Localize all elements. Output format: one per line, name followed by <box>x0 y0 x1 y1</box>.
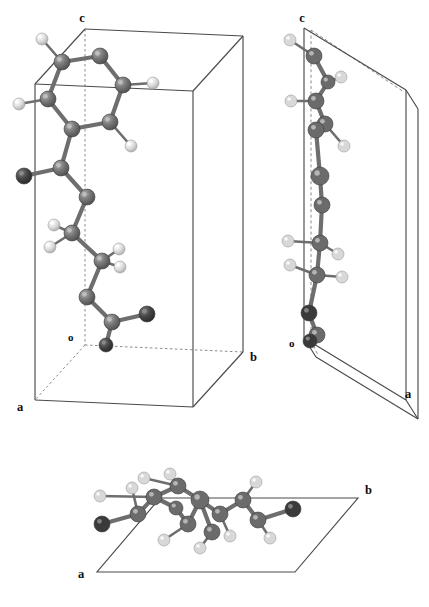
axis-label-a: a <box>17 400 24 414</box>
hydrogen-atom <box>335 71 347 83</box>
axis-label-a: a <box>78 567 85 581</box>
atom-specular-highlight <box>102 341 106 345</box>
axis-label-c: c <box>79 11 85 25</box>
atom-specular-highlight <box>67 124 72 129</box>
carbon-atom <box>314 197 330 213</box>
atom-specular-highlight <box>183 519 188 524</box>
atom-specular-highlight <box>337 73 341 77</box>
hydrogen-atom <box>264 532 276 544</box>
atom-specular-highlight <box>50 221 54 225</box>
atom-specular-highlight <box>166 470 170 474</box>
atom-specular-highlight <box>338 273 342 277</box>
panel-bottom-projection: b a <box>60 432 429 607</box>
carbon-atom <box>54 54 70 70</box>
carbon-atom <box>250 512 266 528</box>
carbon-atom <box>309 267 325 283</box>
carbon-atom <box>191 491 209 509</box>
atom-specular-highlight <box>96 492 100 496</box>
molecule-atoms-right <box>282 34 350 348</box>
carbon-atom <box>311 167 329 185</box>
atom-specular-highlight <box>286 261 290 265</box>
hydrogen-atom <box>282 235 294 247</box>
atom-specular-highlight <box>311 96 316 101</box>
atom-specular-highlight <box>311 125 316 130</box>
carbon-atom <box>204 524 220 540</box>
carbon-atom <box>115 77 131 93</box>
oxygen-atom <box>99 338 113 352</box>
oxygen-atom <box>139 306 155 322</box>
atom-specular-highlight <box>320 119 325 124</box>
atom-specular-highlight <box>127 142 131 146</box>
atom-specular-highlight <box>266 534 270 538</box>
hydrogen-atom <box>194 542 206 554</box>
atom-specular-highlight <box>57 57 62 62</box>
atom-specular-highlight <box>215 509 220 514</box>
atom-specular-highlight <box>43 94 48 99</box>
carbon-atom <box>146 489 162 505</box>
molecule-atoms-bottom <box>94 468 301 554</box>
molecule-bonds-right <box>288 40 344 341</box>
oxygen-atom <box>94 516 110 532</box>
atom-specular-highlight <box>142 309 147 314</box>
panel-left-projection: c o a b <box>0 0 262 430</box>
hydrogen-atom <box>338 140 350 152</box>
carbon-atom <box>102 114 118 130</box>
atom-specular-highlight <box>105 117 110 122</box>
atom-specular-highlight <box>309 51 314 56</box>
atom-specular-highlight <box>82 192 87 197</box>
left-projection-svg: c o a b <box>0 0 262 430</box>
hydrogen-atom <box>125 140 137 152</box>
carbon-atom <box>130 506 146 522</box>
atom-specular-highlight <box>317 200 322 205</box>
right-projection-svg: c o a <box>258 0 429 430</box>
atom-specular-highlight <box>304 308 309 313</box>
hydrogen-atom <box>332 248 344 260</box>
hydrogen-atom <box>114 261 126 273</box>
carbon-atom <box>306 48 322 64</box>
atom-specular-highlight <box>15 100 19 104</box>
atom-specular-highlight <box>286 36 290 40</box>
origin-label-o: o <box>68 331 74 343</box>
carbon-atom <box>92 48 108 64</box>
atom-specular-highlight <box>149 492 154 497</box>
carbon-atom <box>308 122 324 138</box>
hydrogen-atom <box>138 472 150 484</box>
panel-right-projection: c o a <box>258 0 429 430</box>
atom-specular-highlight <box>160 536 164 540</box>
oxygen-atom <box>303 334 317 348</box>
atom-specular-highlight <box>172 504 176 508</box>
carbon-atom <box>180 516 196 532</box>
carbon-atom <box>64 225 80 241</box>
atom-specular-highlight <box>97 519 102 524</box>
atom-specular-highlight <box>19 171 24 176</box>
hydrogen-atom <box>224 530 236 542</box>
carbon-atom <box>321 75 335 89</box>
atom-specular-highlight <box>288 504 293 509</box>
carbon-atom <box>170 478 186 494</box>
atom-specular-highlight <box>315 238 320 243</box>
bottom-projection-svg: b a <box>60 432 429 607</box>
carbon-atom <box>169 501 183 515</box>
atom-specular-highlight <box>133 509 138 514</box>
atom-specular-highlight <box>128 484 132 488</box>
atom-specular-highlight <box>107 317 112 322</box>
atom-specular-highlight <box>56 163 61 168</box>
atom-specular-highlight <box>324 78 328 82</box>
carbon-atom <box>104 314 120 330</box>
hydrogen-atom <box>36 33 48 45</box>
atom-specular-highlight <box>312 330 317 335</box>
axis-label-b: b <box>250 350 257 364</box>
atom-specular-highlight <box>284 237 288 241</box>
carbon-atom <box>40 91 56 107</box>
carbon-atom <box>64 121 80 137</box>
hydrogen-atom <box>126 482 138 494</box>
atom-specular-highlight <box>340 142 344 146</box>
atom-specular-highlight <box>97 256 102 261</box>
atom-specular-highlight <box>194 494 199 499</box>
carbon-atom <box>308 93 324 109</box>
oxygen-atom <box>285 501 301 517</box>
hydrogen-atom <box>284 34 296 46</box>
atom-specular-highlight <box>95 51 100 56</box>
atom-specular-highlight <box>252 478 256 482</box>
atom-specular-highlight <box>312 270 317 275</box>
